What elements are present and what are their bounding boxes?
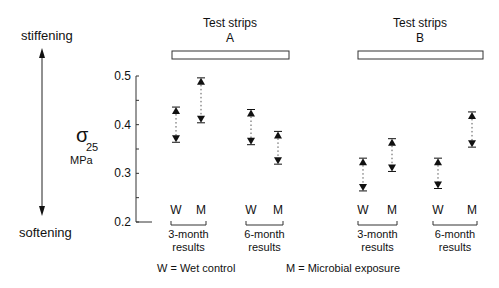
period: WM3-monthresults — [168, 78, 208, 253]
y-tick-label: 0.5 — [114, 69, 131, 83]
softening-label: softening — [19, 225, 72, 240]
up-triangle-marker — [274, 131, 282, 138]
y-tick-label: 0.3 — [114, 166, 131, 180]
direction-indicator: stiffening softening — [19, 28, 73, 240]
period-bracket — [433, 221, 477, 225]
group-a: Test stripsAWM3-monthresultsWM6-monthres… — [168, 16, 289, 253]
data-point-w: W — [432, 158, 444, 217]
data-point-w: W — [357, 158, 369, 217]
up-triangle-marker — [468, 112, 476, 119]
period-label: 6-month — [435, 228, 475, 240]
period: WM6-monthresults — [432, 112, 477, 253]
group-bar — [172, 51, 289, 59]
up-triangle-marker — [247, 110, 255, 117]
y-unit-label: MPa — [70, 154, 94, 166]
period: WM3-monthresults — [357, 139, 397, 253]
stiffening-label: stiffening — [21, 28, 73, 43]
up-triangle-marker — [197, 78, 205, 85]
down-triangle-marker — [247, 138, 255, 145]
category-label: W — [357, 203, 369, 217]
up-triangle-marker — [172, 107, 180, 114]
down-triangle-marker — [468, 140, 476, 147]
up-triangle-marker — [359, 158, 367, 165]
plot-groups: Test stripsAWM3-monthresultsWM6-monthres… — [168, 16, 483, 253]
period-label: 6-month — [244, 228, 284, 240]
period-bracket — [171, 221, 206, 225]
y-axis-label: σ 25 MPa — [70, 124, 98, 166]
group-title: Test strips — [203, 16, 257, 30]
y-axis: 0.20.30.40.5 — [114, 69, 152, 229]
category-label: M — [273, 203, 283, 217]
data-point-w: W — [245, 110, 257, 218]
period: WM6-monthresults — [244, 110, 284, 254]
category-label: W — [245, 203, 257, 217]
period-bracket — [246, 221, 283, 225]
data-point-m: M — [273, 131, 283, 217]
legend: W = Wet control M = Microbial exposure — [157, 262, 400, 274]
down-triangle-marker — [434, 182, 442, 189]
data-point-w: W — [170, 107, 182, 217]
period-bracket — [358, 221, 397, 225]
y-tick-label: 0.4 — [114, 118, 131, 132]
category-label: W — [170, 203, 182, 217]
down-triangle-marker — [197, 116, 205, 123]
down-triangle-marker — [274, 157, 282, 164]
category-label: M — [467, 203, 477, 217]
group-letter: A — [226, 31, 234, 45]
period-label-results: results — [248, 241, 281, 253]
arrow-down-icon — [39, 206, 45, 216]
category-label: W — [432, 203, 444, 217]
sigma-subscript: 25 — [86, 141, 98, 153]
period-label-results: results — [439, 241, 472, 253]
period-label: 3-month — [168, 228, 208, 240]
period-label: 3-month — [357, 228, 397, 240]
category-label: M — [387, 203, 397, 217]
legend-item-wet-control: W = Wet control — [157, 262, 235, 274]
y-tick-label: 0.2 — [114, 215, 131, 229]
group-bar — [358, 51, 483, 59]
period-label-results: results — [361, 241, 394, 253]
category-label: M — [196, 203, 206, 217]
data-point-m: M — [196, 78, 206, 217]
up-triangle-marker — [388, 139, 396, 146]
group-title: Test strips — [393, 16, 447, 30]
up-triangle-marker — [434, 158, 442, 165]
chart: stiffening softening σ 25 MPa 0.20.30.40… — [0, 0, 499, 288]
down-triangle-marker — [388, 164, 396, 171]
legend-item-microbial-exposure: M = Microbial exposure — [286, 262, 400, 274]
data-point-m: M — [467, 112, 477, 217]
data-point-m: M — [387, 139, 397, 217]
down-triangle-marker — [172, 135, 180, 142]
arrow-up-icon — [39, 48, 45, 58]
down-triangle-marker — [359, 184, 367, 191]
group-letter: B — [416, 31, 424, 45]
period-label-results: results — [172, 241, 205, 253]
group-b: Test stripsBWM3-monthresultsWM6-monthres… — [357, 16, 483, 253]
